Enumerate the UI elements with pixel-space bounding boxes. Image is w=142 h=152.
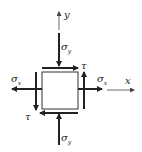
diagram-canvas: y x σy σy σx σx τ τ <box>0 0 142 152</box>
sigma-x-right-subscript: x <box>104 79 108 86</box>
sigma-y-bottom-label: σy <box>61 132 72 146</box>
sigma-x-left-label: σx <box>11 73 22 86</box>
sigma-y-top-subscript: y <box>67 47 72 55</box>
sigma-x-left-subscript: x <box>18 79 22 86</box>
y-axis-label: y <box>63 9 70 20</box>
stress-element-diagram: y x σy σy σx σx τ τ <box>0 0 142 152</box>
sigma-y-top-label: σy <box>61 41 72 55</box>
stress-element-square <box>42 72 78 109</box>
x-axis-label: x <box>125 75 131 86</box>
tau-top-label: τ <box>81 60 87 71</box>
sigma-y-bottom-subscript: y <box>67 138 72 146</box>
tau-left-label: τ <box>25 111 31 122</box>
sigma-x-right-label: σx <box>97 73 108 86</box>
